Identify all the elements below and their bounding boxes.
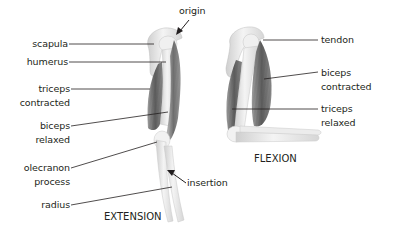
flexion-arm-illustration [226, 27, 321, 142]
caption-extension: EXTENSION [104, 211, 162, 222]
caption-flexion: FLEXION [254, 153, 297, 164]
origin-arrow [176, 20, 189, 35]
label-origin: origin [179, 4, 205, 18]
label-humerus: humerus [27, 55, 68, 69]
label-biceps-contracted: biceps contracted [321, 66, 371, 94]
label-tendon: tendon [321, 33, 354, 47]
label-scapula: scapula [32, 37, 68, 51]
extension-arm-illustration [147, 28, 184, 222]
label-biceps-relaxed: biceps relaxed [35, 119, 70, 147]
leader-biceps-contracted [264, 72, 318, 79]
label-radius: radius [41, 198, 70, 212]
leader-olecranon [71, 142, 157, 168]
label-triceps-relaxed: triceps relaxed [321, 102, 356, 130]
label-triceps-contracted: triceps contracted [20, 82, 70, 110]
label-olecranon-process: olecranon process [24, 161, 70, 189]
leader-radius [71, 187, 172, 205]
label-insertion: insertion [187, 176, 228, 190]
